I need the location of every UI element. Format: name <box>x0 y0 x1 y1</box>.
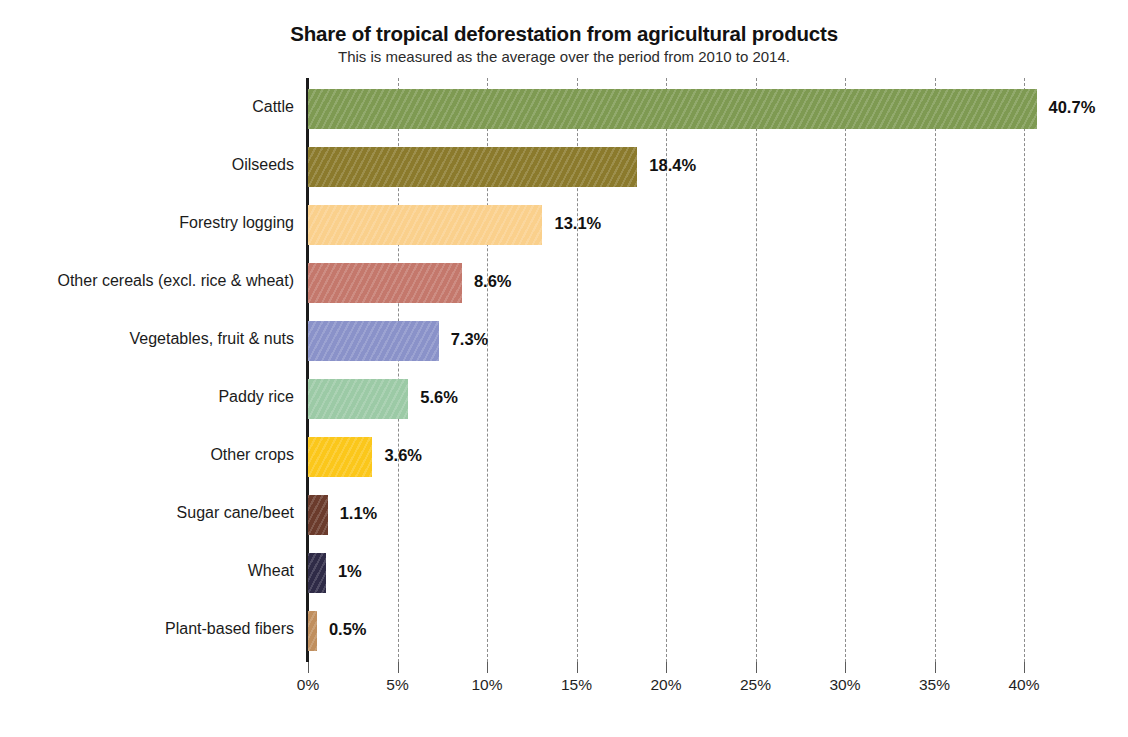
bar[interactable] <box>308 611 317 651</box>
x-axis-tick <box>308 662 309 673</box>
bar-value-label: 1% <box>338 562 362 581</box>
bar-row[interactable]: 40.7% <box>308 80 1024 138</box>
bar-value-label: 5.6% <box>420 388 458 407</box>
category-label: Plant-based fibers <box>0 620 294 638</box>
bar-texture <box>308 437 372 477</box>
category-label: Vegetables, fruit & nuts <box>0 330 294 348</box>
bar[interactable] <box>308 205 542 245</box>
bar[interactable] <box>308 495 328 535</box>
bar-texture <box>308 611 317 651</box>
bar[interactable] <box>308 89 1037 129</box>
bar-value-label: 18.4% <box>649 156 696 175</box>
x-axis-tick-label: 40% <box>1008 676 1039 694</box>
x-axis-tick-label: 15% <box>561 676 592 694</box>
bar-row[interactable]: 3.6% <box>308 428 1024 486</box>
bar-texture <box>308 89 1037 129</box>
bar-value-label: 7.3% <box>451 330 489 349</box>
category-label: Other crops <box>0 446 294 464</box>
bar-row[interactable]: 1% <box>308 544 1024 602</box>
bar[interactable] <box>308 147 637 187</box>
bar-texture <box>308 321 439 361</box>
bar-texture <box>308 495 328 535</box>
x-axis-tick <box>666 662 667 673</box>
x-axis-tick-label: 0% <box>297 676 319 694</box>
x-axis-tick-label: 30% <box>829 676 860 694</box>
bar-texture <box>308 263 462 303</box>
x-axis-tick <box>577 662 578 673</box>
bar-row[interactable]: 18.4% <box>308 138 1024 196</box>
x-axis-tick-label: 10% <box>471 676 502 694</box>
category-label: Oilseeds <box>0 156 294 174</box>
category-label: Wheat <box>0 562 294 580</box>
bar-row[interactable]: 0.5% <box>308 602 1024 660</box>
category-label: Cattle <box>0 98 294 116</box>
x-axis-tick <box>935 662 936 673</box>
page-title: Share of tropical deforestation from agr… <box>0 22 1128 46</box>
bar-value-label: 8.6% <box>474 272 512 291</box>
x-axis-tick-label: 20% <box>650 676 681 694</box>
bar-row[interactable]: 1.1% <box>308 486 1024 544</box>
category-label: Forestry logging <box>0 214 294 232</box>
bar-row[interactable]: 7.3% <box>308 312 1024 370</box>
plot-area: 0%5%10%15%20%25%30%35%40%40.7%18.4%13.1%… <box>308 78 1024 658</box>
bar-texture <box>308 553 326 593</box>
bar[interactable] <box>308 553 326 593</box>
category-label: Other cereals (excl. rice & wheat) <box>0 272 294 290</box>
bar-row[interactable]: 5.6% <box>308 370 1024 428</box>
deforestation-bar-chart: Share of tropical deforestation from agr… <box>0 0 1128 737</box>
bar-value-label: 0.5% <box>329 620 367 639</box>
category-label: Paddy rice <box>0 388 294 406</box>
bar-value-label: 13.1% <box>554 214 601 233</box>
bar-texture <box>308 147 637 187</box>
x-axis-tick <box>845 662 846 673</box>
x-axis-tick-label: 25% <box>740 676 771 694</box>
bar[interactable] <box>308 263 462 303</box>
title-block: Share of tropical deforestation from agr… <box>0 22 1128 65</box>
category-label: Sugar cane/beet <box>0 504 294 522</box>
bar-value-label: 1.1% <box>340 504 378 523</box>
x-axis-tick <box>487 662 488 673</box>
bar[interactable] <box>308 321 439 361</box>
bar-row[interactable]: 13.1% <box>308 196 1024 254</box>
x-axis-tick-label: 35% <box>919 676 950 694</box>
bar-value-label: 3.6% <box>384 446 422 465</box>
bar-texture <box>308 379 408 419</box>
bar[interactable] <box>308 437 372 477</box>
chart-subtitle: This is measured as the average over the… <box>0 48 1128 65</box>
bar[interactable] <box>308 379 408 419</box>
x-axis-tick <box>756 662 757 673</box>
bar-value-label: 40.7% <box>1049 98 1096 117</box>
gridline <box>1024 78 1026 662</box>
category-axis: CattleOilseedsForestry loggingOther cere… <box>0 78 294 658</box>
x-axis-tick-label: 5% <box>386 676 408 694</box>
x-axis-tick <box>398 662 399 673</box>
x-axis-tick <box>1024 662 1025 673</box>
bar-texture <box>308 205 542 245</box>
bar-row[interactable]: 8.6% <box>308 254 1024 312</box>
